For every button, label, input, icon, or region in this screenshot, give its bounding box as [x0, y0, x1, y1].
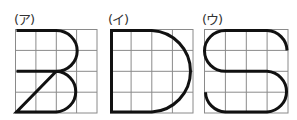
figure-a-b-shape	[16, 30, 98, 114]
letter-diagrams	[0, 0, 297, 120]
figure-u-s-shape	[205, 30, 289, 114]
figure-i-d-shape	[111, 30, 194, 114]
grid-i	[111, 30, 194, 114]
